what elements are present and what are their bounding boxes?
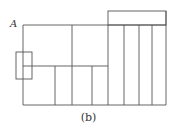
caption: (b): [0, 111, 177, 124]
small-rect: [16, 52, 32, 79]
point-label-a: A: [10, 18, 17, 29]
upper-box: [108, 11, 166, 25]
